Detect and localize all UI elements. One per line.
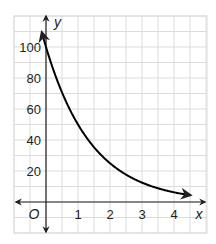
x-tick-label: 2 bbox=[106, 207, 113, 222]
y-tick-label: 20 bbox=[27, 164, 41, 179]
x-tick-label: 3 bbox=[138, 207, 145, 222]
y-tick-label: 80 bbox=[27, 71, 41, 86]
y-tick-label: 60 bbox=[27, 102, 41, 117]
y-tick-label: 40 bbox=[27, 133, 41, 148]
x-axis-label: x bbox=[195, 206, 204, 222]
y-tick-label: 100 bbox=[19, 40, 41, 55]
x-tick-label: 4 bbox=[170, 207, 177, 222]
x-tick-label: 1 bbox=[74, 207, 81, 222]
y-axis-label: y bbox=[53, 14, 62, 30]
tick-labels: 123420406080100Oxy bbox=[19, 14, 203, 222]
grid bbox=[14, 16, 207, 233]
origin-label: O bbox=[29, 206, 40, 222]
exponential-decay-graph: 123420406080100Oxy bbox=[0, 0, 216, 244]
